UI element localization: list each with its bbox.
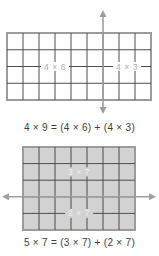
distributive-property-worksheet: 4 × 6 4 × 3 4 × 9 = (4 × 6) + (4 × 3) 3 … (0, 0, 159, 256)
bottom-equation: 5 × 7 = (3 × 7) + (2 × 7) (0, 236, 159, 250)
top-array-diagram: 4 × 6 4 × 3 (0, 0, 159, 118)
top-equation: 4 × 9 = (4 × 6) + (4 × 3) (0, 121, 159, 135)
bottom-array-diagram: 3 × 7 2 × 7 (0, 140, 159, 236)
bottom-grid-label-bottom: 2 × 7 (68, 208, 90, 218)
bottom-grid-label-top: 3 × 7 (68, 167, 90, 177)
top-grid-label-right: 4 × 3 (116, 62, 138, 72)
top-grid-label-left: 4 × 6 (44, 62, 66, 72)
